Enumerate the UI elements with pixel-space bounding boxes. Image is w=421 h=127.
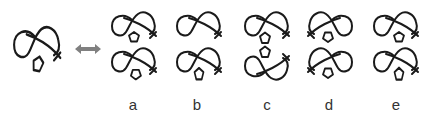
option-label-a: a — [123, 96, 143, 114]
option-label-b: b — [187, 96, 207, 114]
option-label-c: c — [257, 96, 277, 114]
option-label-e: e — [386, 96, 406, 114]
double-headed-arrow-icon — [75, 40, 101, 50]
option-c-bottom — [243, 46, 291, 82]
option-a-top — [110, 10, 158, 44]
option-b-top — [175, 10, 223, 44]
option-label-d: d — [319, 96, 339, 114]
option-e-top — [372, 10, 420, 44]
option-c-top — [243, 10, 291, 46]
option-a-bottom — [110, 46, 158, 80]
option-b-bottom — [175, 46, 223, 80]
option-d-top — [306, 10, 354, 44]
option-d-bottom — [306, 46, 354, 80]
reference-figure — [12, 22, 64, 78]
option-e-bottom — [372, 46, 420, 80]
